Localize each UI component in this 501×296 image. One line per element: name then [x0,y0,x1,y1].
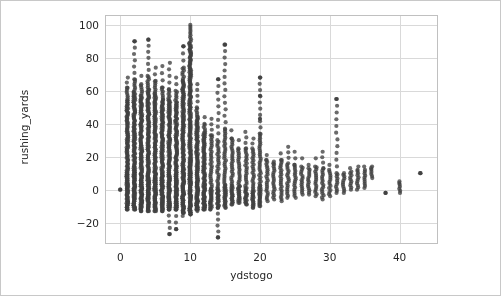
x-axis-label: ydstogo [1,269,501,281]
chart-figure: ydstogo rushing_yards 010203040 −2002040… [0,0,501,296]
y-tick-label: 0 [59,184,99,196]
x-tick-label: 40 [393,251,406,263]
x-tick-label: 30 [323,251,336,263]
y-tick-label: 100 [59,19,99,31]
x-tick-label: 0 [117,251,124,263]
y-tick-label: −20 [59,217,99,229]
x-tick-label: 10 [183,251,196,263]
scatter-plot-canvas [1,1,501,296]
y-tick-label: 40 [59,118,99,130]
y-axis-label: rushing_yards [18,72,30,182]
x-tick-label: 20 [253,251,266,263]
y-tick-label: 60 [59,85,99,97]
y-tick-label: 20 [59,151,99,163]
y-tick-label: 80 [59,52,99,64]
